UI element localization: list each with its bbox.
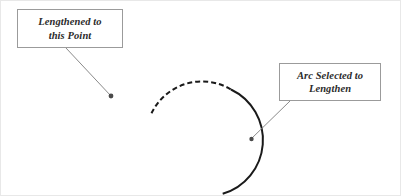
callout-lengthened-to-point-label: Lengthened to this Point xyxy=(32,15,107,41)
selected-arc-touch-point-dot xyxy=(249,137,253,141)
leader-line-arc-selected xyxy=(251,101,290,139)
callout-arc-selected-to-lengthen-label: Arc Selected to Lengthen xyxy=(291,69,369,95)
leader-line-lengthened-to-point xyxy=(66,48,111,96)
callout-arc-selected-to-lengthen: Arc Selected to Lengthen xyxy=(279,63,381,101)
lengthened-endpoint-dot xyxy=(109,94,114,99)
diagram-canvas: Lengthened to this Point Arc Selected to… xyxy=(0,0,401,196)
arc-extension-dashed xyxy=(152,81,232,113)
arc-original-solid xyxy=(223,90,263,194)
callout-lengthened-to-point: Lengthened to this Point xyxy=(17,9,123,48)
